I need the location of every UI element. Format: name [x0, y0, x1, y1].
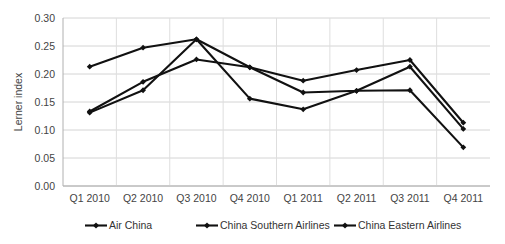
x-tick-label: Q2 2011	[337, 192, 377, 204]
legend-marker-symbol	[342, 222, 348, 228]
x-tick-label: Q4 2011	[444, 192, 484, 204]
data-point-marker	[194, 57, 200, 63]
data-point-marker	[300, 106, 306, 112]
legend-item-china-southern-airlines[interactable]: China Southern Airlines	[196, 219, 330, 231]
y-tick-label: 0.20	[35, 68, 56, 80]
y-axis-title: Lerner index	[12, 72, 24, 131]
y-axis-tick-labels-group: 0.000.050.100.150.200.250.30	[35, 12, 56, 192]
y-tick-label: 0.15	[35, 96, 56, 108]
lerner-index-line-chart: 0.000.050.100.150.200.250.30 Q1 2010Q2 2…	[0, 0, 505, 244]
legend-label: China Eastern Airlines	[358, 219, 461, 231]
legend-label: Air China	[109, 219, 152, 231]
legend-label: China Southern Airlines	[220, 219, 330, 231]
x-axis-tick-labels-group: Q1 2010Q2 2010Q3 2010Q4 2010Q1 2011Q2 20…	[70, 192, 484, 204]
x-tick-label: Q3 2011	[390, 192, 430, 204]
legend-marker-symbol	[204, 222, 210, 228]
x-tick-label: Q3 2010	[176, 192, 216, 204]
y-tick-label: 0.25	[35, 40, 56, 52]
x-tick-label: Q1 2010	[70, 192, 110, 204]
chart-legend: Air ChinaChina Southern AirlinesChina Ea…	[85, 219, 461, 231]
y-tick-label: 0.30	[35, 12, 56, 24]
legend-marker-symbol	[93, 222, 99, 228]
data-point-marker	[87, 64, 93, 70]
y-tick-label: 0.05	[35, 152, 56, 164]
y-tick-label: 0.00	[35, 180, 56, 192]
data-point-marker	[354, 67, 360, 73]
y-tick-label: 0.10	[35, 124, 56, 136]
x-tick-label: Q2 2010	[123, 192, 163, 204]
x-tick-label: Q1 2011	[283, 192, 323, 204]
legend-item-air-china[interactable]: Air China	[85, 219, 152, 231]
legend-item-china-eastern-airlines[interactable]: China Eastern Airlines	[334, 219, 461, 231]
chart-container: 0.000.050.100.150.200.250.30 Q1 2010Q2 2…	[0, 0, 505, 244]
x-tick-label: Q4 2010	[230, 192, 270, 204]
data-point-marker	[300, 78, 306, 84]
